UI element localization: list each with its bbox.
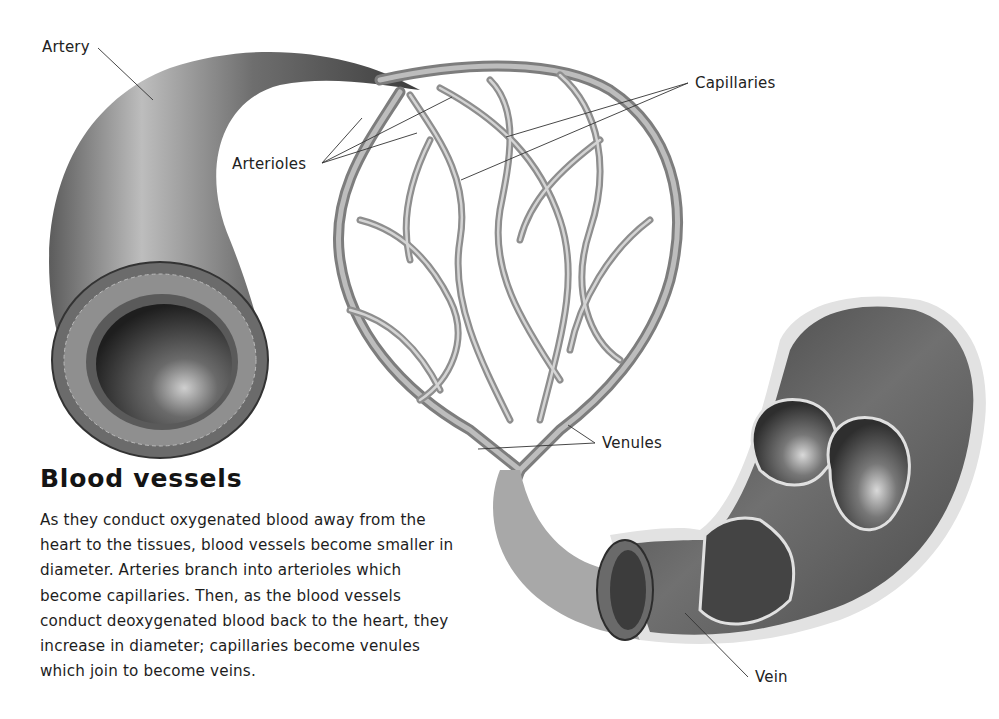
label-arterioles: Arterioles (232, 155, 306, 173)
label-artery: Artery (42, 38, 90, 56)
description-line: heart to the tissues, blood vessels beco… (40, 533, 520, 558)
description-line: diameter. Arteries branch into arteriole… (40, 558, 520, 583)
label-venules: Venules (602, 434, 662, 452)
description-line: conduct deoxygenated blood back to the h… (40, 609, 520, 634)
diagram-title: Blood vessels (40, 464, 242, 493)
label-capillaries: Capillaries (695, 74, 775, 92)
description-paragraph: As they conduct oxygenated blood away fr… (40, 508, 520, 684)
artery (49, 52, 420, 458)
description-line: As they conduct oxygenated blood away fr… (40, 508, 520, 533)
label-vein: Vein (755, 668, 788, 686)
description-line: become capillaries. Then, as the blood v… (40, 584, 520, 609)
description-line: increase in diameter; capillaries become… (40, 634, 520, 659)
description-line: which join to become veins. (40, 659, 520, 684)
